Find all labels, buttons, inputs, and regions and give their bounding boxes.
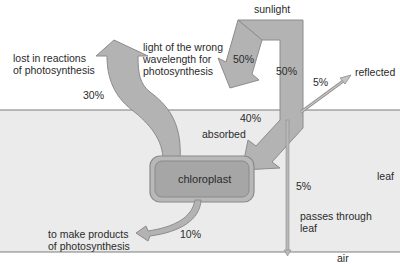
lost-percent: 30%	[83, 89, 104, 101]
reflected-label: reflected	[355, 66, 395, 78]
passes-through-line-1: passes through	[300, 210, 372, 222]
air-label: air	[337, 252, 349, 264]
wrong-wavelength-percent: 50%	[233, 53, 254, 65]
leaf-label: leaf	[377, 170, 394, 182]
reflected-percent: 5%	[313, 76, 328, 88]
passes-through-line-2: leaf	[300, 222, 372, 234]
products-line-2: of photosynthesis	[48, 240, 130, 252]
passes-through-percent: 5%	[296, 180, 311, 192]
lost-label: lost in reactions of photosynthesis	[13, 52, 95, 76]
passes-through-arrowhead	[284, 250, 291, 256]
wrong-wavelength-line-1: light of the wrong	[143, 41, 223, 53]
incoming-percent: 50%	[276, 65, 297, 77]
products-percent: 10%	[180, 228, 201, 240]
wrong-wavelength-line-2: wavelength for	[143, 53, 223, 65]
products-line-1: to make products	[48, 228, 130, 240]
lost-line-1: lost in reactions	[13, 52, 95, 64]
light-fate-diagram: sunlight light of the wrong wavelength f…	[0, 0, 400, 264]
wrong-wavelength-label: light of the wrong wavelength for photos…	[143, 41, 223, 77]
sunlight-label: sunlight	[254, 3, 290, 15]
passes-through-label: passes through leaf	[300, 210, 372, 234]
passes-through-arrow	[286, 120, 289, 252]
products-label: to make products of photosynthesis	[48, 228, 130, 252]
chloroplast-label: chloroplast	[178, 173, 231, 185]
absorbed-label: absorbed	[202, 128, 246, 140]
lost-line-2: of photosynthesis	[13, 64, 95, 76]
wrong-wavelength-line-3: photosynthesis	[143, 65, 223, 77]
absorbed-percent: 40%	[240, 112, 261, 124]
